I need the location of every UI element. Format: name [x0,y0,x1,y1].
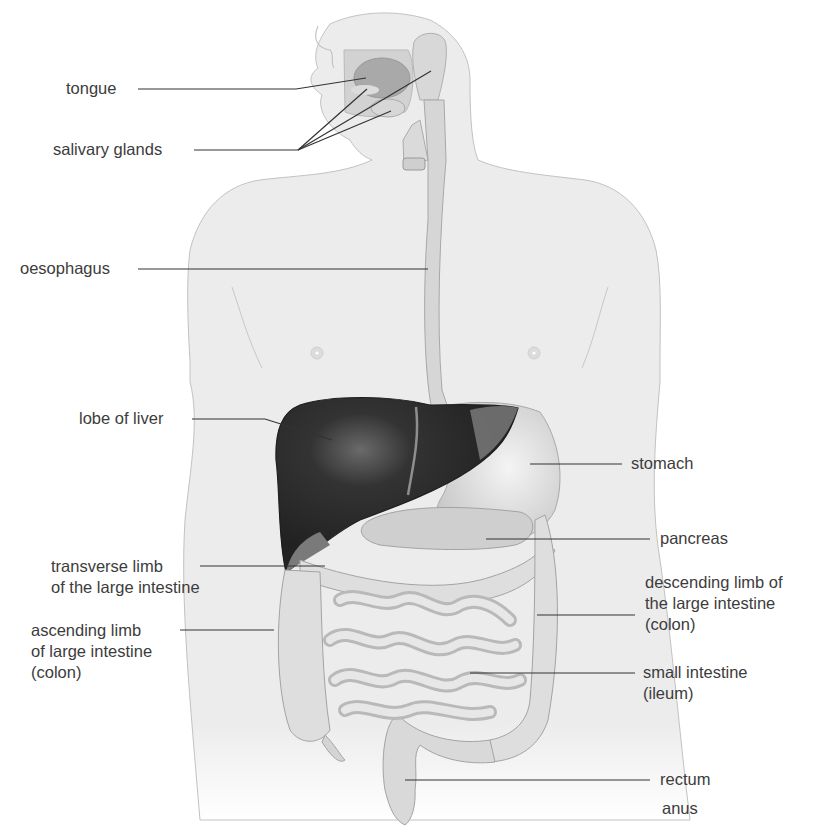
label-small-intestine: small intestine (ileum) [643,662,748,704]
label-ascending-limb: ascending limb of large intestine (colon… [31,620,152,683]
label-tongue: tongue [66,78,116,99]
label-pancreas: pancreas [660,528,728,549]
label-transverse-limb: transverse limb of the large intestine [51,556,200,598]
pancreas-organ [361,507,532,549]
label-stomach: stomach [631,453,693,474]
label-rectum: rectum [660,769,710,790]
label-anus: anus [662,798,698,819]
label-oesophagus: oesophagus [20,258,110,279]
label-descending-limb: descending limb of the large intestine (… [645,572,783,635]
label-lobe-of-liver: lobe of liver [79,408,163,429]
label-salivary-glands: salivary glands [53,139,162,160]
